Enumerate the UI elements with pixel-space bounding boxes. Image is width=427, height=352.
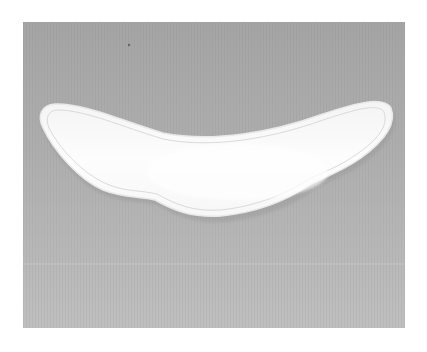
photograph: Curved white fabric piece with stitched … [23,22,405,328]
dust-speck [128,44,130,46]
photo-svg [23,22,405,328]
fabric-highlight [148,144,328,200]
image-canvas: Curved white fabric piece with stitched … [0,0,427,352]
